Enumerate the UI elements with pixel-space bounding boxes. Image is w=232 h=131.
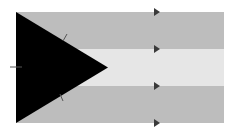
flag-diagram (0, 0, 232, 131)
